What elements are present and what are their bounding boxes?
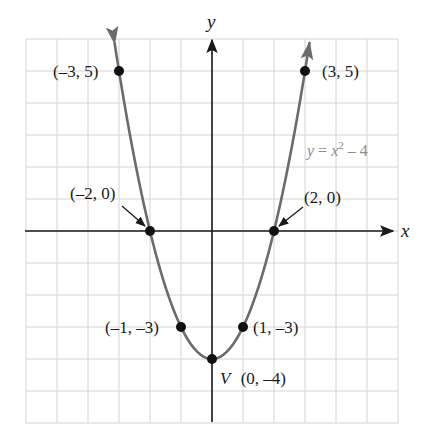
data-point <box>145 226 155 236</box>
y-axis-label: y <box>205 11 216 32</box>
label-point-2-0: (2, 0) <box>304 188 341 207</box>
label-point-1-m3: (1, –3) <box>253 318 298 337</box>
label-point-m1-m3: (–1, –3) <box>105 318 159 337</box>
data-point <box>300 66 310 76</box>
label-point-m3-5: (–3, 5) <box>53 62 98 81</box>
data-point <box>269 226 279 236</box>
pointer-arrow-m2-0 <box>122 206 145 226</box>
vertex-prefix: V <box>220 369 233 388</box>
label-point-3-5: (3, 5) <box>322 62 359 81</box>
x-axis-label: x <box>400 220 410 241</box>
label-vertex: V (0, –4) <box>220 369 286 388</box>
data-point <box>207 354 217 364</box>
pointer-arrow-2-0 <box>279 207 303 226</box>
equation-label: y = x2 – 4 <box>305 139 368 160</box>
vertex-coords: (0, –4) <box>241 369 286 388</box>
parabola-graph: x y (–3, 5) (3, 5) (–2, 0) (2, 0) (–1, –… <box>0 0 425 441</box>
data-point <box>238 322 248 332</box>
data-point <box>176 322 186 332</box>
data-point <box>114 66 124 76</box>
label-point-m2-0: (–2, 0) <box>70 184 115 203</box>
